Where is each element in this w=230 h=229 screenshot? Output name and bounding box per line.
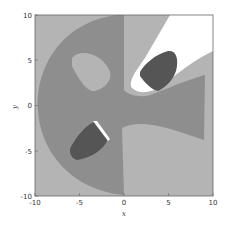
x-tick-label: 10 [209, 199, 218, 207]
x-axis-label: x [122, 210, 126, 218]
y-tick-label: -5 [25, 148, 32, 156]
y-tick-label: 5 [28, 57, 32, 65]
x-tick-label: 5 [166, 199, 170, 207]
x-tick-label: -5 [76, 199, 83, 207]
plot-svg: -10 -5 0 5 10 10 5 0 -5 -10 x y [0, 0, 230, 229]
region-plot: -10 -5 0 5 10 10 5 0 -5 -10 x y [0, 0, 230, 229]
y-tick-label: -10 [21, 193, 32, 201]
y-axis-label: y [11, 104, 19, 110]
x-tick-label: 0 [122, 199, 126, 207]
y-tick-label: 10 [23, 12, 32, 20]
y-tick-label: 0 [28, 102, 32, 110]
